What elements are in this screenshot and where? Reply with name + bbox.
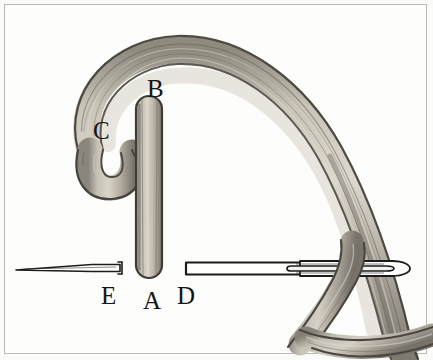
vertical-thread-group: [136, 96, 162, 278]
label-b: B: [147, 76, 164, 101]
label-a: A: [143, 288, 161, 313]
thread-hook-body: [88, 150, 133, 188]
thread-hook-inner-edge: [101, 150, 122, 177]
thread-loop-group: [75, 36, 418, 359]
illustration-svg: [0, 0, 433, 360]
label-e: E: [101, 283, 117, 308]
label-d: D: [177, 283, 195, 308]
figure-container: A B C D E: [0, 0, 433, 360]
thread-hook-end-group: [76, 150, 145, 199]
label-c: C: [93, 118, 110, 143]
